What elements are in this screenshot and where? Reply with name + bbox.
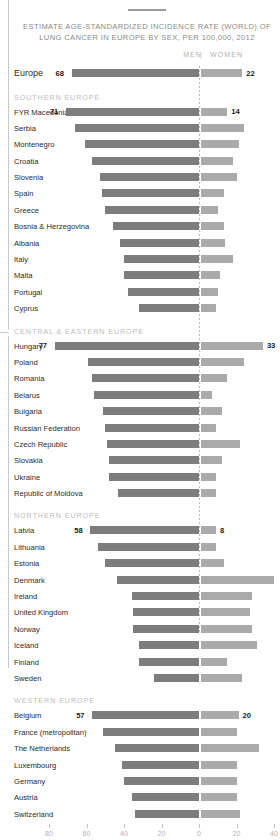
bar-women xyxy=(201,793,237,801)
bar-women xyxy=(201,140,239,148)
bar-men xyxy=(94,391,199,399)
row-label: The Netherlands xyxy=(14,744,70,753)
row-label: Croatia xyxy=(14,157,38,166)
left-margin-rule-top xyxy=(8,0,9,330)
bar-men xyxy=(102,189,200,197)
value-men: 77 xyxy=(39,341,47,350)
row-label: Romania xyxy=(14,374,44,383)
chart-row: Sweden xyxy=(14,671,280,687)
value-women: 33 xyxy=(267,341,275,350)
row-label: Slovenia xyxy=(14,173,43,182)
chart-row: Belgium5720 xyxy=(14,708,280,724)
chart-row: Italy xyxy=(14,252,280,268)
chart-row: Malta xyxy=(14,268,280,284)
bar-men xyxy=(105,206,199,214)
row-label: Lithuania xyxy=(14,543,45,552)
bar-men xyxy=(133,625,199,633)
chart-row: Finland xyxy=(14,655,280,671)
chart-rows: Europe6822SOUTHERN EUROPEFYR Macedonia71… xyxy=(14,66,280,823)
bar-men xyxy=(115,744,199,752)
value-women: 14 xyxy=(231,107,239,116)
bar-men xyxy=(66,108,199,116)
chart-row: Lithuania xyxy=(14,540,280,556)
left-margin-rule-bottom xyxy=(8,336,9,668)
chart-row: Norway xyxy=(14,622,280,638)
bar-men xyxy=(132,793,200,801)
axis-tick xyxy=(49,824,50,828)
bar-women xyxy=(201,342,263,350)
bar-women xyxy=(201,288,218,296)
row-label: Austria xyxy=(14,793,38,802)
row-label: Spain xyxy=(14,189,33,198)
bar-men xyxy=(107,440,199,448)
bar-men xyxy=(139,658,199,666)
chart-row: Portugal xyxy=(14,285,280,301)
axis-tick-label: 20 xyxy=(233,830,241,837)
row-label: Republic of Moldova xyxy=(14,489,83,498)
axis-tick xyxy=(274,824,275,828)
row-label: Poland xyxy=(14,358,38,367)
bar-women xyxy=(201,761,237,769)
x-axis: 8060402002040 xyxy=(14,824,280,840)
bar-men xyxy=(154,674,199,682)
axis-tick-label: 20 xyxy=(158,830,166,837)
section-header-label: WESTERN EUROPE xyxy=(14,696,95,705)
bar-men xyxy=(55,342,199,350)
bar-men xyxy=(124,255,199,263)
chart-row: Ireland xyxy=(14,589,280,605)
bar-women xyxy=(201,374,227,382)
section-header: NORTHERN EUROPE xyxy=(14,509,280,523)
row-label: Russian Federation xyxy=(14,424,80,433)
bar-women xyxy=(201,608,250,616)
chart-row: Montenegro xyxy=(14,137,280,153)
bar-women xyxy=(201,358,244,366)
axis-tick xyxy=(162,824,163,828)
chart-row: Hungary7733 xyxy=(14,339,280,355)
section-header: SOUTHERN EUROPE xyxy=(14,91,280,105)
chart-row: Croatia xyxy=(14,154,280,170)
chart-row: Slovakia xyxy=(14,453,280,469)
bar-women xyxy=(201,206,218,214)
chart-row: The Netherlands xyxy=(14,741,280,757)
legend-separator: | xyxy=(200,51,202,58)
chart-row: Germany xyxy=(14,774,280,790)
bar-women xyxy=(201,728,237,736)
chart-row: FYR Macedonia7114 xyxy=(14,105,280,121)
chart-row: United Kingdom xyxy=(14,605,280,621)
bar-women xyxy=(201,592,252,600)
row-label: Italy xyxy=(14,255,28,264)
chart-row: Serbia xyxy=(14,121,280,137)
row-label: Denmark xyxy=(14,576,45,585)
bar-women xyxy=(201,543,216,551)
row-label: Montenegro xyxy=(14,140,55,149)
row-label: Belarus xyxy=(14,391,40,400)
bar-women xyxy=(201,407,222,415)
bar-women xyxy=(201,255,233,263)
chart-row: Denmark xyxy=(14,573,280,589)
chart-row: Greece xyxy=(14,203,280,219)
bar-men xyxy=(92,374,199,382)
left-margin-tick xyxy=(0,332,9,333)
bar-women xyxy=(201,559,224,567)
title-rule xyxy=(128,9,166,11)
bar-women xyxy=(201,173,237,181)
row-label: Greece xyxy=(14,206,39,215)
chart-plot-area: Europe6822SOUTHERN EUROPEFYR Macedonia71… xyxy=(14,66,280,656)
row-label: Ireland xyxy=(14,592,37,601)
bar-women xyxy=(201,304,216,312)
bar-women xyxy=(201,108,227,116)
bar-men xyxy=(135,810,199,818)
bar-women xyxy=(201,711,239,719)
bar-men xyxy=(139,641,199,649)
bar-women xyxy=(201,391,212,399)
chart-legend: MEN | WOMEN xyxy=(14,51,280,63)
chart-row: Austria xyxy=(14,790,280,806)
bar-women xyxy=(201,674,242,682)
chart-row: Poland xyxy=(14,355,280,371)
bar-men xyxy=(103,407,199,415)
row-label: FYR Macedonia xyxy=(14,108,68,117)
axis-tick xyxy=(124,824,125,828)
row-label: Sweden xyxy=(14,674,41,683)
bar-men xyxy=(72,69,200,77)
section-gap xyxy=(14,687,280,694)
